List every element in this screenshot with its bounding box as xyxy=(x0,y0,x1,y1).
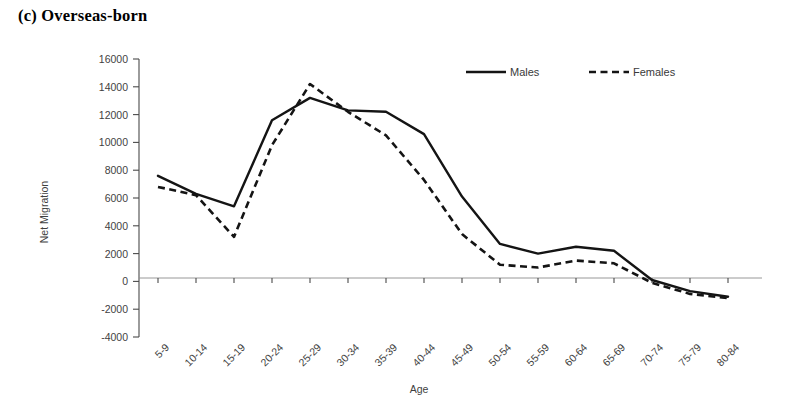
x-tick-label: 45-49 xyxy=(448,341,476,369)
x-axis-tick-labels: 5-910-1415-1920-2425-2930-3435-3940-4445… xyxy=(152,341,741,369)
legend-label-females: Females xyxy=(633,66,676,78)
y-tick-label: 4000 xyxy=(105,220,129,232)
x-tick-label: 75-79 xyxy=(676,341,704,369)
x-tick-label: 5-9 xyxy=(152,341,171,360)
y-axis-ticks xyxy=(133,59,139,337)
y-tick-label: 12000 xyxy=(99,109,128,121)
y-tick-label: 2000 xyxy=(105,248,129,260)
y-tick-label: 8000 xyxy=(105,164,129,176)
y-axis: 1600014000120001000080006000400020000-20… xyxy=(38,53,139,343)
legend: Males Females xyxy=(466,66,676,78)
y-tick-label: 16000 xyxy=(99,53,128,65)
x-tick-label: 10-14 xyxy=(182,341,210,369)
y-tick-label: 0 xyxy=(122,275,128,287)
y-tick-label: -2000 xyxy=(101,303,128,315)
series-line-males xyxy=(158,98,728,297)
x-tick-label: 55-59 xyxy=(524,341,552,369)
x-tick-label: 50-54 xyxy=(486,341,514,369)
y-tick-label: 10000 xyxy=(99,136,128,148)
x-tick-label: 25-29 xyxy=(296,341,324,369)
x-tick-label: 70-74 xyxy=(638,341,666,369)
legend-label-males: Males xyxy=(510,66,540,78)
y-tick-label: -4000 xyxy=(101,331,128,343)
x-tick-label: 60-64 xyxy=(562,341,590,369)
y-axis-tick-labels: 1600014000120001000080006000400020000-20… xyxy=(99,53,128,343)
y-tick-label: 14000 xyxy=(99,81,128,93)
x-tick-label: 35-39 xyxy=(372,341,400,369)
y-tick-label: 6000 xyxy=(105,192,129,204)
chart-canvas: 1600014000120001000080006000400020000-20… xyxy=(0,0,800,420)
x-tick-label: 40-44 xyxy=(410,341,438,369)
x-tick-label: 15-19 xyxy=(220,341,248,369)
x-tick-label: 30-34 xyxy=(334,341,362,369)
x-axis-title: Age xyxy=(410,383,429,395)
series-line-females xyxy=(158,84,728,298)
x-tick-label: 20-24 xyxy=(258,341,286,369)
x-tick-label: 65-69 xyxy=(600,341,628,369)
chart-figure: (c) Overseas-born 1600014000120001000080… xyxy=(0,0,800,420)
x-axis: 5-910-1415-1920-2425-2930-3435-3940-4445… xyxy=(139,278,762,395)
y-axis-title: Net Migration xyxy=(38,181,50,244)
plot-series xyxy=(158,84,728,298)
x-tick-label: 80-84 xyxy=(714,341,742,369)
